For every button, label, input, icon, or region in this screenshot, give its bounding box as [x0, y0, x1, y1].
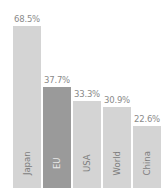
bar-1: EU	[43, 87, 71, 188]
value-label-2: 33.3%	[74, 90, 100, 99]
bar-group-2: 33.3% USA	[73, 101, 101, 188]
bar-chart: 68.5% Japan 37.7% EU 33.3% USA 30.9% Wor…	[0, 0, 168, 190]
value-label-1: 37.7%	[44, 76, 70, 85]
value-label-3: 30.9%	[104, 96, 130, 105]
bar-group-3: 30.9% World	[103, 107, 131, 188]
category-label-0: Japan	[23, 151, 32, 175]
category-label-4: China	[143, 151, 152, 175]
value-label-4: 22.6%	[134, 115, 160, 124]
category-label-3: World	[113, 151, 122, 175]
bar-group-4: 22.6% China	[133, 126, 161, 188]
category-label-wrap-2: USA	[73, 142, 101, 184]
category-label-wrap-0: Japan	[13, 142, 41, 184]
bar-4: China	[133, 126, 161, 188]
category-label-2: USA	[83, 154, 92, 172]
bar-2: USA	[73, 101, 101, 188]
value-label-0: 68.5%	[14, 15, 40, 24]
bar-3: World	[103, 107, 131, 188]
category-label-wrap-3: World	[103, 142, 131, 184]
bar-group-1: 37.7% EU	[43, 87, 71, 188]
category-label-wrap-4: China	[133, 142, 161, 184]
category-label-1: EU	[53, 157, 62, 169]
category-label-wrap-1: EU	[43, 142, 71, 184]
bar-group-0: 68.5% Japan	[13, 26, 41, 188]
bar-0: Japan	[13, 26, 41, 188]
